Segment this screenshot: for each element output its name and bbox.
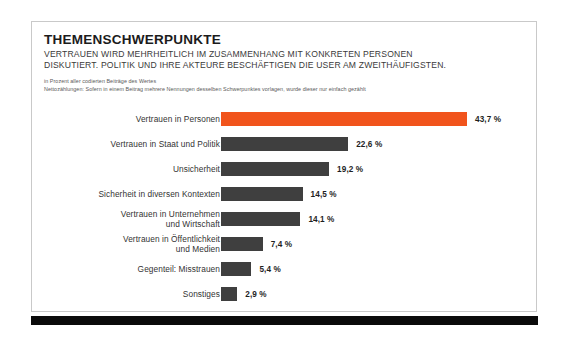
bar-track: 7,4 % <box>221 237 536 251</box>
bar <box>221 262 251 276</box>
bar-row: Vertrauen in Unternehmen und Wirtschaft1… <box>32 206 536 231</box>
chart-notes: in Prozent aller codierten Beiträge des … <box>44 77 526 93</box>
bar-chart-plot: Vertrauen in Personen43,7 %Vertrauen in … <box>32 106 536 306</box>
bar-track: 43,7 % <box>221 112 536 126</box>
bar-category-label: Gegenteil: Misstrauen <box>32 263 220 273</box>
bar-value-label: 14,1 % <box>308 214 334 223</box>
bar-row: Unsicherheit19,2 % <box>32 156 536 181</box>
bar-row: Vertrauen in Staat und Politik22,6 % <box>32 131 536 156</box>
bar-track: 19,2 % <box>221 162 536 176</box>
bar-track: 5,4 % <box>221 262 536 276</box>
chart-subtitle-line-2: DISKUTIERT. POLITIK UND IHRE AKTEURE BES… <box>44 60 526 71</box>
bar-category-label: Vertrauen in Unternehmen und Wirtschaft <box>32 208 220 228</box>
bar-category-label: Sicherheit in diversen Kontexten <box>32 188 220 198</box>
bar-value-label: 22,6 % <box>356 139 382 148</box>
bar <box>221 212 300 226</box>
bar-track: 22,6 % <box>221 137 536 151</box>
chart-card: THEMENSCHWERPUNKTE VERTRAUEN WIRD MEHRHE… <box>31 21 537 312</box>
bottom-rule <box>31 316 538 325</box>
bar-value-label: 2,9 % <box>245 289 266 298</box>
bar-row: Gegenteil: Misstrauen5,4 % <box>32 256 536 281</box>
bar-value-label: 5,4 % <box>259 264 280 273</box>
chart-title: THEMENSCHWERPUNKTE <box>44 32 526 47</box>
chart-subtitle: VERTRAUEN WIRD MEHRHEITLICH IM ZUSAMMENH… <box>44 49 526 70</box>
bar <box>221 112 467 126</box>
bar-category-label: Unsicherheit <box>32 163 220 173</box>
note-line-method: Nettozählungen: Sofern in einem Beitrag … <box>44 85 526 93</box>
bar-category-label: Sonstiges <box>32 288 220 298</box>
chart-subtitle-line-1: VERTRAUEN WIRD MEHRHEITLICH IM ZUSAMMENH… <box>44 49 526 60</box>
bar-row: Sicherheit in diversen Kontexten14,5 % <box>32 181 536 206</box>
bar-category-label: Vertrauen in Staat und Politik <box>32 138 220 148</box>
bar-value-label: 19,2 % <box>337 164 363 173</box>
bar-value-label: 43,7 % <box>475 114 501 123</box>
chart-page: THEMENSCHWERPUNKTE VERTRAUEN WIRD MEHRHE… <box>0 0 567 346</box>
bar <box>221 237 263 251</box>
bar-category-label: Vertrauen in Öffentlichkeit und Medien <box>32 233 220 253</box>
bar <box>221 162 329 176</box>
bar-track: 14,1 % <box>221 212 536 226</box>
bar <box>221 137 348 151</box>
chart-header: THEMENSCHWERPUNKTE VERTRAUEN WIRD MEHRHE… <box>44 32 526 94</box>
bar-row: Vertrauen in Öffentlichkeit und Medien7,… <box>32 231 536 256</box>
bar-value-label: 14,5 % <box>311 189 337 198</box>
bar <box>221 187 303 201</box>
bar-row: Sonstiges2,9 % <box>32 281 536 306</box>
note-line-unit: in Prozent aller codierten Beiträge des … <box>44 77 526 85</box>
bar <box>221 287 237 301</box>
bar-row: Vertrauen in Personen43,7 % <box>32 106 536 131</box>
bar-category-label: Vertrauen in Personen <box>32 113 220 123</box>
bar-value-label: 7,4 % <box>271 239 292 248</box>
bar-track: 14,5 % <box>221 187 536 201</box>
bar-track: 2,9 % <box>221 287 536 301</box>
